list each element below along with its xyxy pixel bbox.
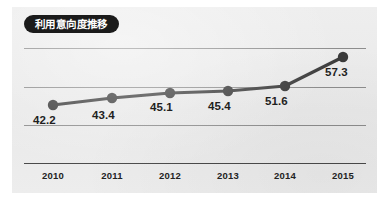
chart-figure: 利用意向度推移 42.2 43.4 45.1 45.4 51.6 57.3 20…: [0, 0, 387, 207]
x-tick-label-2010: 2010: [33, 170, 73, 181]
data-point-2012: [165, 88, 175, 98]
x-tick-label-2014: 2014: [265, 170, 305, 181]
x-tick-label-2011: 2011: [92, 170, 132, 181]
value-label-2012: 45.1: [150, 101, 173, 113]
value-label-2013: 45.4: [208, 100, 231, 112]
data-point-2010: [48, 100, 58, 110]
value-label-2015: 57.3: [325, 66, 348, 78]
data-point-2014: [280, 81, 290, 91]
data-point-2013: [223, 86, 233, 96]
data-point-2015: [338, 52, 348, 62]
x-tick-label-2015: 2015: [323, 170, 363, 181]
value-label-2011: 43.4: [92, 109, 115, 121]
chart-title-badge: 利用意向度推移: [24, 15, 119, 33]
x-tick-label-2013: 2013: [208, 170, 248, 181]
data-point-2011: [107, 93, 117, 103]
series-line-utilization: [53, 57, 343, 105]
x-tick-label-2012: 2012: [150, 170, 190, 181]
value-label-2014: 51.6: [265, 95, 288, 107]
value-label-2010: 42.2: [33, 114, 56, 126]
